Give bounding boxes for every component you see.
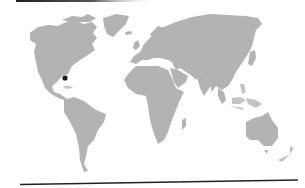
philippines (240, 84, 246, 94)
tasmania (264, 150, 268, 154)
location-marker[interactable] (62, 75, 67, 80)
north-america (30, 21, 97, 97)
indonesia (230, 97, 262, 110)
top-rule (16, 0, 156, 2)
world-map-svg (0, 0, 305, 188)
arctic-islands (62, 14, 96, 22)
japan (248, 50, 256, 66)
madagascar (182, 118, 186, 130)
bottom-rule (20, 180, 298, 185)
southeast-asia (218, 88, 226, 104)
australia (246, 112, 278, 146)
south-america (64, 97, 106, 172)
caribbean (63, 86, 73, 89)
new-zealand (278, 146, 294, 162)
greenland (103, 14, 129, 37)
uk (133, 40, 140, 50)
world-map (0, 0, 305, 188)
iceland (125, 31, 132, 35)
